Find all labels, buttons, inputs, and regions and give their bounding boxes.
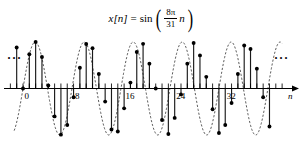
sample-marker <box>204 75 208 79</box>
sample-marker <box>261 95 265 99</box>
sample-marker <box>236 72 240 76</box>
sample-marker <box>78 66 82 70</box>
sample-marker <box>223 123 227 127</box>
sample-marker <box>185 62 189 66</box>
sample-marker <box>217 131 221 135</box>
sample-marker <box>255 67 259 71</box>
sample-marker <box>84 42 88 46</box>
x-tick-label-8: 8 <box>75 92 80 101</box>
sample-marker <box>211 107 215 111</box>
sample-marker <box>192 41 196 45</box>
sample-marker <box>53 114 57 118</box>
sample-marker <box>242 43 246 47</box>
x-axis-ticks <box>10 84 282 89</box>
x-tick-label-24: 24 <box>176 92 185 101</box>
sample-marker <box>59 133 63 137</box>
sample-marker <box>40 55 44 59</box>
sample-marker <box>135 50 139 54</box>
x-tick-label-32: 32 <box>227 92 236 101</box>
sample-marker <box>15 46 19 50</box>
sample-marker <box>198 53 202 57</box>
stem-plot <box>0 0 303 150</box>
sample-marker <box>249 47 253 51</box>
sample-marker <box>65 123 69 127</box>
sample-marker <box>97 72 101 76</box>
sample-marker <box>34 40 38 44</box>
sample-marker <box>173 116 177 120</box>
discrete-sinusoid-figure: x[n] = sin ( 8π 31 n ) ··· ··· n 0816 <box>0 0 303 150</box>
sample-marker <box>27 52 31 56</box>
sample-marker <box>166 132 170 136</box>
x-tick-label-16: 16 <box>126 92 135 101</box>
sample-marker <box>110 128 114 132</box>
sample-marker <box>91 46 95 50</box>
sample-marker <box>160 118 164 122</box>
x-tick-label-0: 0 <box>25 92 30 101</box>
x-axis-arrowhead <box>292 86 299 92</box>
sample-marker <box>141 42 145 46</box>
sample-marker <box>147 62 151 66</box>
sample-marker <box>268 125 272 129</box>
sample-marker <box>116 130 120 134</box>
sample-marker <box>103 100 107 104</box>
sample-marker <box>230 101 234 105</box>
sample-marker <box>122 106 126 110</box>
